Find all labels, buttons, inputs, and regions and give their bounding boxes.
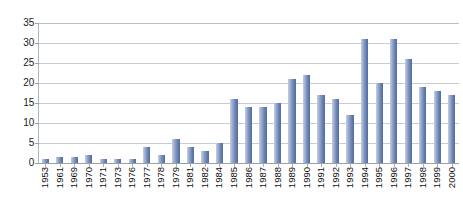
y-tick-0 [35,163,39,164]
x-tick-label-1953: 1953 [40,167,50,188]
bar-slot [111,23,126,163]
bar [143,147,150,163]
x-tick [408,164,409,167]
bar-slot [67,23,82,163]
x-tick [437,164,438,167]
bar [201,151,208,163]
bar-slot [212,23,227,163]
x-tick [74,164,75,167]
x-tick [205,164,206,167]
bar-slot [125,23,140,163]
x-tick [249,164,250,167]
x-tick [379,164,380,167]
bar-slot [227,23,242,163]
bar-slot [256,23,271,163]
bar [172,139,179,163]
y-tick-label-15: 15 [2,98,34,108]
x-tick [45,164,46,167]
x-tick-label-1970: 1970 [84,167,94,188]
y-tick-label-0: 0 [2,158,34,168]
bar [317,95,324,163]
y-axis-labels: 05101520253035 [0,0,34,224]
x-tick [307,164,308,167]
bar-slot [96,23,111,163]
x-tick-label-1979: 1979 [171,167,181,188]
y-tick-label-5: 5 [2,138,34,148]
y-tick-label-20: 20 [2,78,34,88]
x-tick [103,164,104,167]
x-tick-label-1999: 1999 [432,167,442,188]
x-tick [292,164,293,167]
x-tick [147,164,148,167]
bar [346,115,353,163]
bar [245,107,252,163]
x-tick [176,164,177,167]
y-tick-25 [35,63,39,64]
x-tick-label-1996: 1996 [389,167,399,188]
bar-slot [343,23,358,163]
bar-slot [198,23,213,163]
bar-slot [270,23,285,163]
x-tick-label-1987: 1987 [258,167,268,188]
bar-slot [82,23,97,163]
bar-slot [372,23,387,163]
bar-slot [53,23,68,163]
x-tick [161,164,162,167]
y-tick-10 [35,123,39,124]
bar [448,95,455,163]
x-tick [132,164,133,167]
y-tick-label-35: 35 [2,18,34,28]
y-tick-20 [35,83,39,84]
x-tick-label-1988: 1988 [273,167,283,188]
bar-slot [401,23,416,163]
bar-slot [38,23,53,163]
x-tick-label-1961: 1961 [55,167,65,188]
y-tick-30 [35,43,39,44]
bar-slot [386,23,401,163]
x-tick-label-1976: 1976 [127,167,137,188]
bar [390,39,397,163]
bar [303,75,310,163]
x-tick [263,164,264,167]
bar-chart: 05101520253035 1953196119691970197119731… [0,0,463,224]
y-tick-label-25: 25 [2,58,34,68]
bar [274,103,281,163]
x-tick-label-1986: 1986 [244,167,254,188]
bar-slot [430,23,445,163]
bar-slot [328,23,343,163]
x-tick [118,164,119,167]
bar-slot [299,23,314,163]
bar [158,155,165,163]
bar-slot [183,23,198,163]
x-tick [452,164,453,167]
bar [361,39,368,163]
y-tick-5 [35,143,39,144]
y-tick-label-10: 10 [2,118,34,128]
bar [419,87,426,163]
bar [332,99,339,163]
x-tick-label-1977: 1977 [142,167,152,188]
bar-slot [285,23,300,163]
x-tick [394,164,395,167]
x-tick [365,164,366,167]
x-tick [219,164,220,167]
x-tick [423,164,424,167]
bar [376,83,383,163]
y-tick-35 [35,23,39,24]
x-tick [234,164,235,167]
x-tick-label-1994: 1994 [360,167,370,188]
bar [85,155,92,163]
x-tick-label-1985: 1985 [229,167,239,188]
x-tick-label-1973: 1973 [113,167,123,188]
x-tick-label-1991: 1991 [316,167,326,188]
bar [434,91,441,163]
bar-slot [154,23,169,163]
x-tick [336,164,337,167]
y-tick-15 [35,103,39,104]
y-tick-label-30: 30 [2,38,34,48]
bar-slot [169,23,184,163]
bar-slot [415,23,430,163]
x-tick-label-1998: 1998 [418,167,428,188]
bar [216,143,223,163]
x-tick-label-1990: 1990 [302,167,312,188]
